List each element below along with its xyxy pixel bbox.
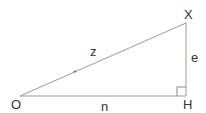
triangle-svg: O H X z n e	[0, 0, 206, 113]
right-angle-marker	[177, 87, 186, 96]
vertex-label-X: X	[184, 7, 193, 22]
side-label-n: n	[101, 99, 108, 113]
point-marker	[74, 71, 76, 73]
side-hypotenuse	[20, 23, 186, 96]
vertex-label-O: O	[11, 97, 21, 112]
triangle-diagram: O H X z n e	[0, 0, 206, 113]
side-label-e: e	[191, 50, 198, 65]
vertex-label-H: H	[183, 97, 192, 112]
side-label-z: z	[90, 44, 97, 59]
